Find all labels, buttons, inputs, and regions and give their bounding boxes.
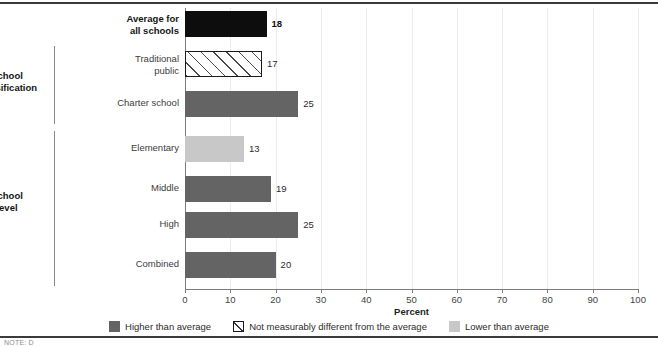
x-axis-tick [593, 289, 594, 293]
legend-swatch-icon [449, 321, 460, 332]
x-axis-tick [230, 289, 231, 293]
x-axis-tick-label: 10 [225, 294, 236, 305]
x-axis-tick-label: 100 [630, 294, 646, 305]
x-axis-title: Percent [185, 306, 638, 317]
x-axis-tick [321, 289, 322, 293]
category-label: Charter school [59, 97, 179, 109]
bar-value-label: 18 [272, 11, 283, 37]
x-axis-tick [502, 289, 503, 293]
bar-value-label: 25 [303, 212, 314, 238]
bar-value-label: 25 [303, 91, 314, 117]
bar [185, 51, 262, 77]
category-label: Traditionalpublic [59, 53, 179, 76]
bar [185, 212, 298, 238]
x-axis-tick [185, 289, 186, 293]
legend-item: Lower than average [449, 321, 549, 332]
bar [185, 11, 267, 37]
bar-value-label: 19 [276, 176, 287, 202]
legend-label: Lower than average [465, 321, 549, 332]
x-axis-tick-label: 30 [316, 294, 327, 305]
x-axis-tick-label: 50 [406, 294, 417, 305]
x-axis-tick-label: 20 [270, 294, 281, 305]
gridline [366, 8, 367, 289]
category-label: High [59, 218, 179, 230]
x-axis-tick-label: 70 [497, 294, 508, 305]
x-axis-tick [276, 289, 277, 293]
group-label: Schoolclassification [0, 70, 50, 93]
top-divider-rule [0, 2, 658, 4]
group-bracket [54, 46, 55, 124]
footer-note-clipped: NOTE: D [4, 339, 124, 347]
category-label: Combined [59, 258, 179, 270]
bar [185, 176, 271, 202]
category-label: Middle [59, 182, 179, 194]
group-bracket [54, 131, 55, 286]
bar [185, 91, 298, 117]
x-axis-tick [412, 289, 413, 293]
legend-label: Higher than average [125, 321, 211, 332]
bar-value-label: 20 [281, 252, 292, 278]
category-label: Elementary [59, 142, 179, 154]
bar-value-label: 17 [267, 51, 278, 77]
gridline [502, 8, 503, 289]
bar-chart: 0102030405060708090100 18172513192520 Av… [0, 0, 658, 347]
gridline [547, 8, 548, 289]
x-axis-tick-label: 80 [542, 294, 553, 305]
group-label: Schoollevel [0, 190, 50, 213]
legend-label: Not measurably different from the averag… [249, 321, 427, 332]
chart-legend: Higher than averageNot measurably differ… [0, 319, 658, 333]
bar [185, 252, 276, 278]
x-axis-tick [366, 289, 367, 293]
category-label: Average forall schools [59, 13, 179, 36]
x-axis-tick-label: 90 [587, 294, 598, 305]
bar-value-label: 13 [249, 136, 260, 162]
x-axis-tick [638, 289, 639, 293]
gridline [412, 8, 413, 289]
legend-swatch-icon [109, 321, 120, 332]
bar [185, 136, 244, 162]
bottom-divider-rule [0, 336, 658, 338]
gridline [593, 8, 594, 289]
x-axis-tick [457, 289, 458, 293]
gridline [457, 8, 458, 289]
x-axis-tick-label: 60 [452, 294, 463, 305]
x-axis-tick-label: 0 [182, 294, 187, 305]
legend-swatch-icon [233, 321, 244, 332]
gridline [638, 8, 639, 289]
x-axis-tick-label: 40 [361, 294, 372, 305]
x-axis-tick [547, 289, 548, 293]
legend-item: Not measurably different from the averag… [233, 321, 427, 332]
legend-item: Higher than average [109, 321, 211, 332]
gridline [321, 8, 322, 289]
